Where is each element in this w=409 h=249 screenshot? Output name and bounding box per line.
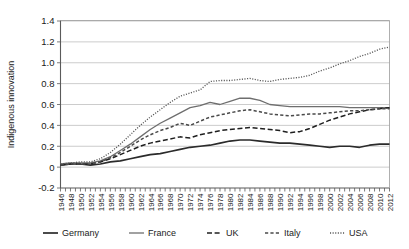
x-tick-label: 1984	[246, 193, 255, 211]
chart-container: -0.200.20.40.60.81.01.21.4 1946194819501…	[0, 0, 409, 249]
x-tick-label: 1986	[256, 193, 265, 211]
y-tick-label: 1.4	[41, 15, 54, 26]
legend-label-usa: USA	[349, 228, 368, 238]
x-tick-label: 2002	[336, 193, 345, 211]
x-tick-label: 2000	[326, 193, 335, 211]
legend-label-france: France	[148, 228, 176, 238]
y-axis-title: Indigenous innovation	[6, 61, 16, 149]
x-tick-label: 2006	[356, 193, 365, 211]
legend-label-uk: UK	[226, 228, 239, 238]
legend-label-italy: Italy	[284, 228, 301, 238]
x-tick-label: 1958	[117, 193, 126, 211]
x-tick-label: 1964	[147, 193, 156, 211]
x-tick-label: 1980	[226, 193, 235, 211]
x-tick-label: 1948	[67, 193, 76, 211]
x-tick-label: 1952	[87, 193, 96, 211]
x-tick-label: 1988	[266, 193, 275, 211]
x-tick-label: 1956	[107, 193, 116, 211]
x-tick-label: 2008	[366, 193, 375, 211]
x-tick-label: 1990	[276, 193, 285, 211]
x-tick-label: 1996	[306, 193, 315, 211]
x-tick-label: 1972	[186, 193, 195, 211]
x-tick-label: 1976	[206, 193, 215, 211]
y-tick-label: -0.2	[38, 182, 54, 193]
x-tick-label: 1978	[216, 193, 225, 211]
x-tick-label: 1970	[176, 193, 185, 211]
y-axis-ticks: -0.200.20.40.60.81.01.21.4	[38, 15, 60, 193]
chart-legend: GermanyFranceUKItalyUSA	[43, 228, 368, 238]
y-tick-label: 1.2	[41, 36, 54, 47]
x-tick-label: 1954	[97, 193, 106, 211]
x-tick-label: 1982	[236, 193, 245, 211]
y-tick-label: 1.0	[41, 57, 54, 68]
x-tick-label: 1950	[77, 193, 86, 211]
x-tick-label: 1998	[316, 193, 325, 211]
y-tick-label: 0	[49, 162, 54, 173]
x-tick-label: 1962	[137, 193, 146, 211]
x-tick-label: 2012	[386, 193, 395, 211]
x-tick-label: 1974	[196, 193, 205, 211]
data-series	[61, 47, 390, 165]
x-tick-label: 1994	[296, 193, 305, 211]
y-tick-label: 0.8	[41, 78, 54, 89]
x-tick-label: 2004	[346, 193, 355, 211]
x-tick-label: 1946	[57, 193, 66, 211]
series-line-france	[61, 98, 390, 164]
line-chart: -0.200.20.40.60.81.01.21.4 1946194819501…	[0, 0, 409, 249]
x-tick-label: 1966	[156, 193, 165, 211]
y-tick-label: 0.4	[41, 120, 54, 131]
y-tick-label: 0.2	[41, 141, 54, 152]
x-tick-label: 2010	[376, 193, 385, 211]
x-tick-label: 1968	[166, 193, 175, 211]
x-tick-label: 1992	[286, 193, 295, 211]
gridlines	[61, 21, 390, 167]
legend-label-germany: Germany	[62, 228, 100, 238]
x-axis-tick-labels: 1946194819501952195419561958196019621964…	[57, 193, 395, 211]
series-line-germany	[61, 140, 390, 165]
x-tick-label: 1960	[127, 193, 136, 211]
y-tick-label: 0.6	[41, 99, 54, 110]
